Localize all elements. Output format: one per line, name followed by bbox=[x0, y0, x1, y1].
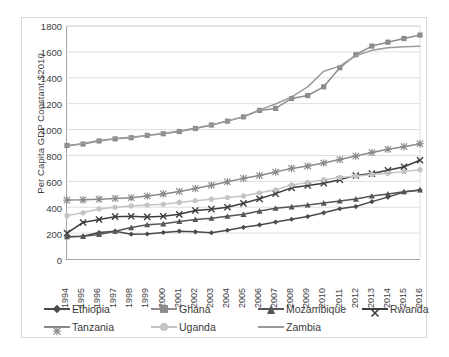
marker-asterisk bbox=[176, 188, 184, 196]
marker-asterisk bbox=[63, 196, 71, 204]
y-tick-1200: 1200 bbox=[26, 99, 62, 110]
legend-label: Ghana bbox=[179, 303, 211, 315]
marker-asterisk bbox=[127, 194, 135, 202]
marker-asterisk bbox=[416, 140, 424, 148]
marker-diamond bbox=[289, 217, 294, 222]
marker-asterisk bbox=[368, 149, 376, 157]
chart-container: Per Capita GDP Constant $2010 1800160014… bbox=[21, 17, 427, 338]
series-zambia bbox=[67, 46, 420, 146]
marker-diamond bbox=[241, 225, 246, 230]
marker-asterisk bbox=[384, 145, 392, 153]
marker-asterisk bbox=[79, 196, 87, 204]
legend-item-tanzania[interactable]: Tanzania bbox=[44, 318, 114, 336]
marker-asterisk bbox=[208, 181, 216, 189]
legend-label: Ethiopia bbox=[72, 303, 110, 315]
legend-row-1: EthiopiaGhanaMozambiqueRwanda bbox=[30, 300, 422, 318]
legend-item-mozambique[interactable]: Mozambique bbox=[258, 300, 346, 318]
legend-item-uganda[interactable]: Uganda bbox=[151, 318, 216, 336]
legend-item-ghana[interactable]: Ghana bbox=[151, 300, 211, 318]
legend-marker-cross-icon bbox=[362, 303, 388, 315]
marker-diamond bbox=[145, 231, 150, 236]
legend-symbol bbox=[53, 305, 61, 313]
marker-circle bbox=[417, 167, 422, 172]
marker-circle bbox=[225, 195, 230, 200]
legend-marker-circle-icon bbox=[151, 321, 177, 333]
legend-symbol bbox=[267, 305, 275, 314]
marker-circle bbox=[321, 177, 326, 182]
marker-diamond bbox=[321, 210, 326, 215]
marker-asterisk bbox=[95, 195, 103, 203]
marker-circle bbox=[401, 169, 406, 174]
marker-asterisk bbox=[336, 156, 344, 164]
y-tick-400: 400 bbox=[26, 203, 62, 214]
legend-item-rwanda[interactable]: Rwanda bbox=[362, 300, 429, 318]
legend-label: Mozambique bbox=[286, 303, 346, 315]
legend-marker-none-icon bbox=[258, 321, 284, 333]
marker-circle bbox=[241, 193, 246, 198]
marker-square bbox=[321, 84, 326, 89]
marker-diamond bbox=[161, 230, 166, 235]
legend-row-2: TanzaniaUgandaZambia bbox=[30, 318, 422, 336]
marker-circle bbox=[209, 197, 214, 202]
marker-diamond bbox=[193, 229, 198, 234]
marker-square bbox=[385, 40, 390, 45]
marker-asterisk bbox=[224, 178, 232, 186]
marker-circle bbox=[145, 202, 150, 207]
marker-circle bbox=[177, 200, 182, 205]
marker-circle bbox=[273, 187, 278, 192]
chart-page: Per Capita GDP Constant $2010 1800160014… bbox=[0, 0, 449, 357]
marker-asterisk bbox=[304, 162, 312, 170]
y-tick-1600: 1600 bbox=[26, 47, 62, 58]
marker-asterisk bbox=[143, 192, 151, 200]
legend-label: Zambia bbox=[286, 321, 321, 333]
marker-circle bbox=[161, 202, 166, 207]
y-tick-1400: 1400 bbox=[26, 73, 62, 84]
marker-asterisk bbox=[288, 165, 296, 173]
series-line bbox=[67, 46, 420, 146]
marker-circle bbox=[193, 198, 198, 203]
legend-item-zambia[interactable]: Zambia bbox=[258, 318, 321, 336]
marker-diamond bbox=[209, 230, 214, 235]
marker-circle bbox=[113, 205, 118, 210]
plot-area bbox=[66, 26, 420, 260]
legend-symbol bbox=[160, 323, 168, 331]
legend-symbol bbox=[52, 322, 62, 332]
y-tick-0: 0 bbox=[26, 255, 62, 266]
chart-legend: EthiopiaGhanaMozambiqueRwanda TanzaniaUg… bbox=[30, 300, 422, 336]
marker-square bbox=[417, 32, 422, 37]
marker-square bbox=[401, 36, 406, 41]
marker-asterisk bbox=[256, 172, 264, 180]
marker-asterisk bbox=[352, 152, 360, 160]
legend-label: Tanzania bbox=[72, 321, 114, 333]
marker-circle bbox=[353, 174, 358, 179]
marker-asterisk bbox=[240, 175, 248, 183]
marker-asterisk bbox=[320, 159, 328, 167]
chart-canvas bbox=[67, 26, 420, 259]
series-ghana bbox=[64, 32, 422, 148]
marker-asterisk bbox=[159, 190, 167, 198]
marker-circle bbox=[369, 172, 374, 177]
series-line bbox=[67, 144, 420, 200]
marker-diamond bbox=[305, 214, 310, 219]
legend-label: Uganda bbox=[179, 321, 216, 333]
y-tick-200: 200 bbox=[26, 229, 62, 240]
y-tick-600: 600 bbox=[26, 177, 62, 188]
marker-square bbox=[369, 43, 374, 48]
marker-diamond bbox=[129, 232, 134, 237]
marker-circle bbox=[96, 206, 101, 211]
marker-circle bbox=[129, 203, 134, 208]
legend-label: Rwanda bbox=[390, 303, 429, 315]
legend-marker-square-icon bbox=[151, 303, 177, 315]
y-tick-1000: 1000 bbox=[26, 125, 62, 136]
legend-marker-asterisk-icon bbox=[44, 321, 70, 333]
y-tick-1800: 1800 bbox=[26, 21, 62, 32]
marker-diamond bbox=[369, 199, 374, 204]
marker-circle bbox=[385, 171, 390, 176]
marker-circle bbox=[305, 180, 310, 185]
y-tick-800: 800 bbox=[26, 151, 62, 162]
legend-marker-diamond-icon bbox=[44, 303, 70, 315]
legend-marker-triangle-icon bbox=[258, 303, 284, 315]
legend-item-ethiopia[interactable]: Ethiopia bbox=[44, 300, 110, 318]
legend-symbol bbox=[160, 305, 168, 313]
marker-circle bbox=[64, 213, 69, 218]
